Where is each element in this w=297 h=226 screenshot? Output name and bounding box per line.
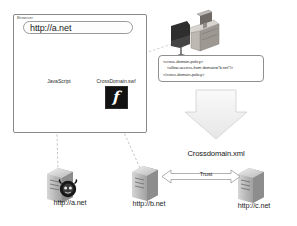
- hacker-skull-icon: [60, 180, 77, 198]
- policy-line-close: </cross-domain-policy>: [163, 72, 263, 78]
- server-label-c-net: http://c.net: [218, 201, 290, 210]
- swf-asset-label: CrossDomain.swf: [90, 78, 142, 84]
- server-icon-b-net: [132, 166, 158, 201]
- server-label-b-net: http://b.net: [113, 199, 185, 208]
- flash-f-glyph: f: [113, 90, 121, 105]
- desk-workstation-icon: [171, 10, 219, 61]
- server-label-a-net: http://a.net: [34, 198, 106, 207]
- url-input-value[interactable]: http://a.net: [30, 23, 71, 33]
- trust-relation-label: Trust: [186, 170, 226, 178]
- server-icon-c-net: [238, 168, 264, 203]
- crossdomain-policy-box: <cross-domain-policy> <allow-access-from…: [158, 55, 264, 82]
- javascript-asset-label: JavaScript: [38, 78, 80, 84]
- flash-swf-icon[interactable]: f: [105, 86, 128, 109]
- diagram-canvas: Browser http://a.net JavaScript CrossDom…: [0, 0, 297, 226]
- crossdomain-xml-caption: Crossdomain.xml: [168, 149, 264, 159]
- policy-delivery-arrow: [185, 90, 247, 139]
